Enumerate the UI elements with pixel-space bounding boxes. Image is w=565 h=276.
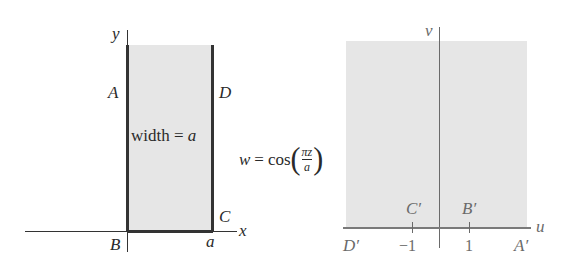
- formula-fraction: πz a: [302, 146, 313, 173]
- point-C-prime-label: C′: [406, 200, 421, 217]
- tick-label-minus-1: −1: [399, 238, 416, 254]
- width-label-var: a: [188, 126, 197, 145]
- point-A-prime-label: A′: [514, 237, 528, 254]
- y-axis-label: y: [112, 25, 120, 42]
- point-B-label: B: [110, 236, 120, 253]
- formula-lhs: w: [239, 151, 250, 168]
- u-axis-label: u: [536, 218, 545, 235]
- x-axis-label: x: [239, 222, 247, 239]
- point-B-prime-label: B′: [462, 200, 476, 217]
- strip-bottom-boundary: [127, 230, 213, 233]
- u-axis: [343, 227, 531, 229]
- formula-close-paren: ): [313, 143, 323, 175]
- mapping-formula: w = cos ( πz a ): [239, 144, 323, 174]
- strip-left-boundary: [126, 45, 129, 232]
- v-axis-label: v: [425, 22, 433, 39]
- formula-equals: =: [254, 151, 264, 168]
- width-label-text: width =: [131, 126, 188, 145]
- x-tick-a-label: a: [206, 233, 215, 250]
- point-A-label: A: [108, 84, 118, 101]
- v-axis: [439, 27, 440, 248]
- point-C-label: C: [219, 208, 230, 225]
- tick-minus-1: [412, 222, 413, 233]
- point-D-label: D: [219, 84, 231, 101]
- formula-func: cos: [268, 151, 291, 168]
- strip-right-boundary: [211, 45, 214, 232]
- upper-half-plane-region: [346, 41, 527, 228]
- tick-plus-1: [469, 222, 470, 233]
- tick-label-plus-1: 1: [465, 238, 473, 254]
- width-label: width = a: [131, 127, 196, 144]
- formula-numerator: πz: [302, 146, 313, 158]
- formula-open-paren: (: [291, 143, 301, 175]
- point-D-prime-label: D′: [343, 237, 359, 254]
- formula-denominator: a: [304, 161, 310, 173]
